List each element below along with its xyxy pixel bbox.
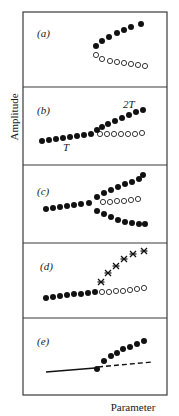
open-circle-marker [99,56,104,61]
asterisk-marker [105,270,112,276]
filled-circle-marker [46,137,52,143]
filled-circle-marker [122,219,128,225]
filled-circle-marker [121,27,127,33]
bifurcation-figure: (a)(b)2TT(c)(d)(e) Amplitude Parameter [0,0,179,416]
filled-circle-marker [129,220,135,226]
open-circle-marker [128,61,133,66]
panel-label: (a) [37,27,50,40]
filled-circle-marker [127,344,133,350]
filled-circle-marker [71,202,77,208]
panel-d: (d) [40,248,148,301]
filled-circle-marker [86,200,92,206]
open-circle-marker [121,60,126,65]
panel-label: (c) [37,185,50,198]
filled-circle-marker [136,221,142,227]
filled-circle-marker [120,346,126,352]
filled-circle-marker [114,30,120,36]
filled-circle-marker [50,294,56,300]
filled-circle-marker [85,290,91,296]
asterisk-marker [121,256,128,262]
filled-circle-marker [140,107,146,113]
filled-circle-marker [92,289,98,295]
filled-circle-marker [142,221,148,227]
filled-circle-marker [94,366,100,372]
open-circle-marker [106,289,111,294]
asterisk-marker [98,279,105,285]
filled-circle-marker [115,217,121,223]
filled-circle-marker [140,172,146,178]
filled-circle-marker [94,127,100,133]
stable-branch-line [46,368,95,372]
filled-circle-marker [64,203,70,209]
open-circle-marker [118,131,123,136]
filled-circle-marker [50,205,56,211]
open-circle-marker [135,62,140,67]
filled-circle-marker [101,358,107,364]
filled-circle-marker [112,118,118,124]
asterisk-marker [130,251,137,257]
filled-circle-marker [134,341,140,347]
open-circle-marker [132,131,137,136]
filled-circle-marker [119,115,125,121]
panel-label: (d) [40,260,53,273]
filled-circle-marker [141,338,147,344]
asterisk-marker [113,263,120,269]
open-circle-marker [100,199,105,204]
filled-circle-marker [138,21,144,27]
filled-circle-marker [101,190,107,196]
filled-circle-marker [53,136,59,142]
open-circle-marker [120,288,125,293]
filled-circle-marker [88,131,94,137]
panel-c: (c) [37,172,148,227]
open-circle-marker [128,197,133,202]
filled-circle-marker [67,134,73,140]
filled-circle-marker [94,194,100,200]
y-axis-label: Amplitude [8,93,20,140]
filled-circle-marker [43,295,49,301]
filled-circle-marker [93,43,99,49]
filled-circle-marker [108,187,114,193]
filled-circle-marker [64,292,70,298]
filled-circle-marker [114,350,120,356]
filled-circle-marker [78,291,84,297]
filled-circle-marker [115,184,121,190]
panel-b: (b)2TT [37,98,146,153]
annotation-label: T [63,141,70,153]
filled-circle-marker [74,133,80,139]
open-circle-marker [93,52,98,57]
filled-circle-marker [78,201,84,207]
filled-circle-marker [108,353,114,359]
open-circle-marker [127,287,132,292]
filled-circle-marker [71,291,77,297]
filled-circle-marker [43,206,49,212]
panel-dividers [23,87,167,318]
open-circle-marker [114,59,119,64]
filled-circle-marker [94,208,100,214]
filled-circle-marker [122,181,128,187]
filled-circle-marker [128,24,134,30]
open-circle-marker [142,63,147,68]
panel-label: (e) [37,335,50,348]
open-circle-marker [113,288,118,293]
filled-circle-marker [129,179,135,185]
open-circle-marker [104,131,109,136]
open-circle-marker [107,199,112,204]
filled-circle-marker [99,124,105,130]
filled-circle-marker [99,38,105,44]
x-axis-label: Parameter [111,401,156,413]
filled-circle-marker [105,121,111,127]
filled-circle-marker [39,138,45,144]
filled-circle-marker [108,214,114,220]
panels: (a)(b)2TT(c)(d)(e) [37,21,152,372]
filled-circle-marker [101,211,107,217]
filled-circle-marker [81,132,87,138]
panel-e: (e) [37,335,152,372]
asterisk-marker [141,248,148,254]
open-circle-marker [99,289,104,294]
filled-circle-marker [126,112,132,118]
filled-circle-marker [57,204,63,210]
open-circle-marker [141,285,146,290]
open-circle-marker [114,198,119,203]
open-circle-marker [135,196,140,201]
open-circle-marker [111,131,116,136]
